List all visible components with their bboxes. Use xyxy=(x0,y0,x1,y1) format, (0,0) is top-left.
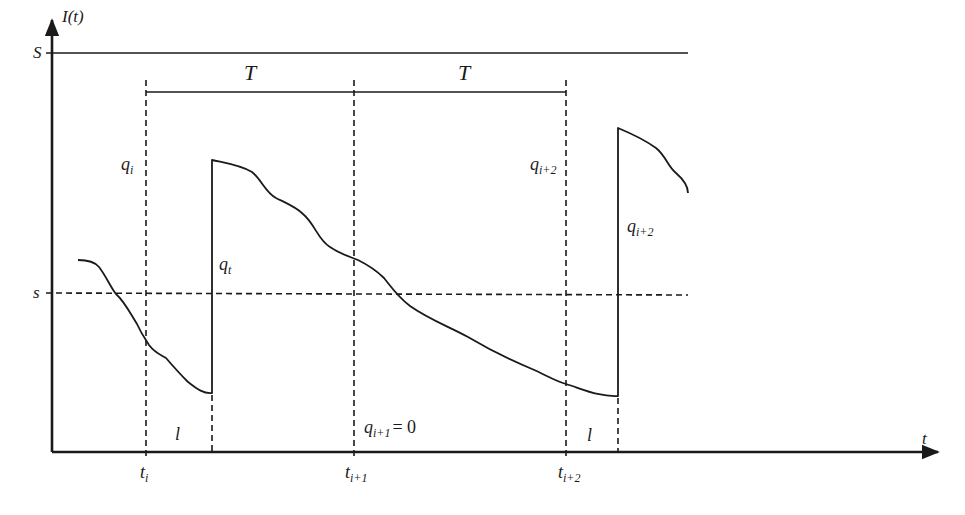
time-label-ti1: ti+1 xyxy=(345,462,367,485)
lead-time-label-1: l xyxy=(175,424,180,444)
inventory-curve xyxy=(78,128,688,396)
upper-level-label: S xyxy=(33,43,42,62)
order-qty-label-qi: qi xyxy=(121,154,133,177)
reorder-level-label: s xyxy=(33,283,40,302)
period-label-1: T xyxy=(244,60,258,85)
x-axis-label: t xyxy=(922,429,928,448)
time-label-ti: ti xyxy=(140,462,148,485)
inventory-diagram: I(t) t S s T T qi qt qi+2 qi+2 qi+1= 0 l… xyxy=(0,0,965,515)
order-qty-label-qi2-left: qi+2 xyxy=(530,154,556,177)
order-qty-label-qt: qt xyxy=(219,254,232,277)
order-qty-label-qi1-zero: qi+1= 0 xyxy=(364,417,416,440)
period-label-2: T xyxy=(458,60,472,85)
reorder-level-line xyxy=(46,293,688,295)
order-qty-label-qi2-right: qi+2 xyxy=(627,216,653,239)
lead-time-label-2: l xyxy=(587,425,592,445)
time-label-ti2: ti+2 xyxy=(558,462,580,485)
y-axis-label: I(t) xyxy=(61,7,84,26)
